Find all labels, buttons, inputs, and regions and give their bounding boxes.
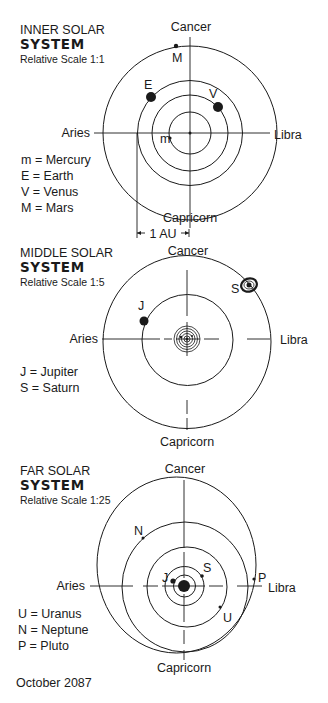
inner-axis-lines — [94, 37, 270, 228]
saturn-marker: S — [200, 561, 211, 578]
inner-title-line1: INNER SOLAR — [20, 23, 105, 37]
saturn-dot-icon — [247, 283, 252, 288]
arrow-left-icon — [137, 231, 141, 235]
jupiter-dot-icon — [170, 578, 175, 583]
saturn-symbol: S — [203, 561, 211, 575]
middle-scale-label: Relative Scale 1:5 — [20, 276, 105, 288]
legend-item: J = Jupiter — [20, 365, 78, 379]
far-title-line1: FAR SOLAR — [20, 464, 90, 478]
far-solar-system-panel: FAR SOLARSYSTEMRelative Scale 1:25Cancer… — [18, 462, 296, 675]
inner-legend: m = MercuryE = EarthV = VenusM = Mars — [21, 153, 92, 215]
neptune-symbol: N — [134, 524, 143, 538]
sun-icon — [186, 338, 189, 341]
inner-sign-aries: Aries — [62, 126, 90, 140]
middle-sign-libra: Libra — [280, 333, 308, 347]
venus-symbol: V — [209, 87, 218, 101]
middle-legend: J = JupiterS = Saturn — [20, 365, 79, 395]
jupiter-symbol: J — [162, 571, 168, 585]
far-sign-aries: Aries — [57, 579, 85, 593]
mars-symbol: M — [172, 51, 182, 65]
jupiter-symbol: J — [138, 299, 144, 313]
far-orbits — [97, 477, 256, 653]
arrow-right-icon — [185, 231, 189, 235]
au-scale-label: 1 AU — [149, 227, 176, 241]
mercury-symbol: m — [160, 132, 170, 146]
pluto-dot-icon — [252, 577, 255, 580]
middle-title-line1: MIDDLE SOLAR — [20, 246, 113, 260]
sun-icon — [178, 580, 190, 592]
far-legend: U = UranusN = NeptuneP = Pluto — [18, 607, 89, 653]
earth-dot-icon — [146, 92, 156, 102]
saturn-marker: S — [231, 276, 259, 296]
mercury-marker: m — [160, 132, 172, 146]
legend-item: m = Mercury — [21, 153, 92, 167]
inner-sign-libra: Libra — [274, 128, 302, 142]
middle-solar-system-panel: MIDDLE SOLARSYSTEMRelative Scale 1:5Canc… — [20, 244, 308, 449]
legend-item: M = Mars — [21, 201, 73, 215]
uranus-dot-icon — [219, 606, 222, 609]
legend-item: E = Earth — [21, 169, 74, 183]
earth-marker: E — [144, 78, 156, 102]
middle-axis-lines — [102, 270, 270, 430]
neptune-marker: N — [134, 524, 145, 540]
inner-title-line2: SYSTEM — [20, 36, 85, 52]
mars-dot-icon — [174, 44, 178, 48]
saturn-symbol: S — [231, 282, 239, 296]
inner-solar-system-panel: INNER SOLARSYSTEMRelative Scale 1:1Cance… — [20, 20, 302, 241]
inner-scale-label: Relative Scale 1:1 — [20, 53, 105, 65]
pluto-orbit — [97, 477, 256, 653]
far-scale-label: Relative Scale 1:25 — [20, 494, 111, 506]
middle-title-line2: SYSTEM — [20, 259, 85, 275]
inner-sign-cancer: Cancer — [171, 20, 211, 34]
far-title-line2: SYSTEM — [20, 477, 85, 493]
far-sign-libra: Libra — [268, 581, 296, 595]
jupiter-dot-icon — [140, 317, 149, 326]
uranus-symbol: U — [223, 611, 232, 625]
legend-item: V = Venus — [21, 185, 78, 199]
solar-system-diagram: INNER SOLARSYSTEMRelative Scale 1:1Cance… — [0, 0, 328, 703]
jupiter-marker: J — [162, 571, 176, 585]
earth-symbol: E — [144, 78, 152, 92]
far-sign-cancer: Cancer — [165, 462, 205, 476]
date-label: October 2087 — [16, 676, 92, 690]
venus-dot-icon — [213, 102, 223, 112]
legend-item: P = Pluto — [18, 639, 69, 653]
legend-item: N = Neptune — [18, 623, 89, 637]
jupiter-marker: J — [138, 299, 149, 326]
middle-sign-aries: Aries — [70, 332, 98, 346]
sun-icon — [189, 132, 192, 135]
legend-item: U = Uranus — [18, 607, 82, 621]
far-sign-capricorn: Capricorn — [157, 661, 211, 675]
middle-sign-capricorn: Capricorn — [160, 435, 214, 449]
legend-item: S = Saturn — [20, 381, 79, 395]
pluto-symbol: P — [258, 571, 266, 585]
